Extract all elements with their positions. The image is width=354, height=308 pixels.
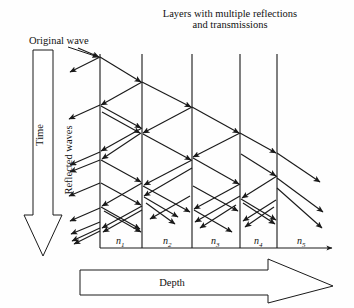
ray-escape-7 — [72, 228, 100, 241]
time-axis-label: Time — [34, 124, 45, 146]
layer-label-n2: n2 — [163, 235, 172, 249]
ray-l2-g — [150, 196, 190, 219]
ray-reflect-surface — [70, 57, 100, 72]
ray-l3-c — [193, 186, 238, 211]
ray-l1-h — [102, 206, 142, 228]
figure-canvas: Layers with multiple reflections and tra… — [0, 0, 354, 308]
ray-l1-b — [101, 128, 142, 151]
ray-l4-a — [241, 154, 276, 176]
ray-escape-1 — [69, 105, 100, 119]
ray-l1-e — [101, 160, 141, 182]
layer-label-n4: n4 — [254, 235, 263, 249]
ray-incident — [78, 48, 99, 57]
ray-paths — [69, 48, 323, 244]
ray-l1-g — [101, 183, 141, 205]
ray-t1 — [100, 57, 141, 82]
original-wave-pointer — [68, 47, 98, 57]
depth-axis-arrow — [80, 259, 333, 303]
depth-axis-label: Depth — [159, 277, 185, 288]
ray-escape-3 — [70, 160, 100, 172]
ray-t4 — [240, 133, 276, 153]
ray-escape-2 — [70, 152, 100, 165]
figure-title-line1: Layers with multiple reflections — [163, 8, 297, 19]
ray-escape-8 — [74, 231, 100, 244]
ray-t3 — [192, 107, 239, 133]
reflected-waves-label: Reflected waves — [63, 125, 74, 194]
ray-t5-out — [277, 153, 320, 182]
ray-r4a — [193, 133, 240, 157]
ray-l3-e — [194, 210, 232, 232]
ray-l3-b — [194, 184, 240, 209]
layer-label-n1: n1 — [116, 235, 125, 249]
ray-l2-a — [143, 134, 191, 160]
ray-l1-d — [102, 133, 141, 159]
ray-r3a — [143, 107, 192, 133]
layer-label-n5: n5 — [297, 235, 306, 249]
ray-escape-5 — [70, 208, 100, 221]
ray-out-1 — [277, 178, 323, 212]
ray-l4-b — [242, 176, 277, 198]
ray-r2a — [101, 82, 142, 105]
ray-escape-6 — [71, 222, 100, 234]
ray-diagram-svg: Layers with multiple reflections and tra… — [0, 0, 354, 308]
ray-l2-c — [143, 186, 190, 212]
original-wave-label: Original wave — [29, 35, 89, 46]
ray-l4-e — [243, 203, 275, 224]
ray-t2 — [142, 82, 191, 107]
ray-l1-a — [101, 106, 141, 128]
ray-l3-a — [193, 158, 239, 184]
time-axis-arrow — [24, 50, 62, 256]
layer-label-n3: n3 — [211, 235, 220, 249]
figure-title-line2: and transmissions — [193, 19, 268, 30]
ray-l1-c — [102, 112, 140, 133]
